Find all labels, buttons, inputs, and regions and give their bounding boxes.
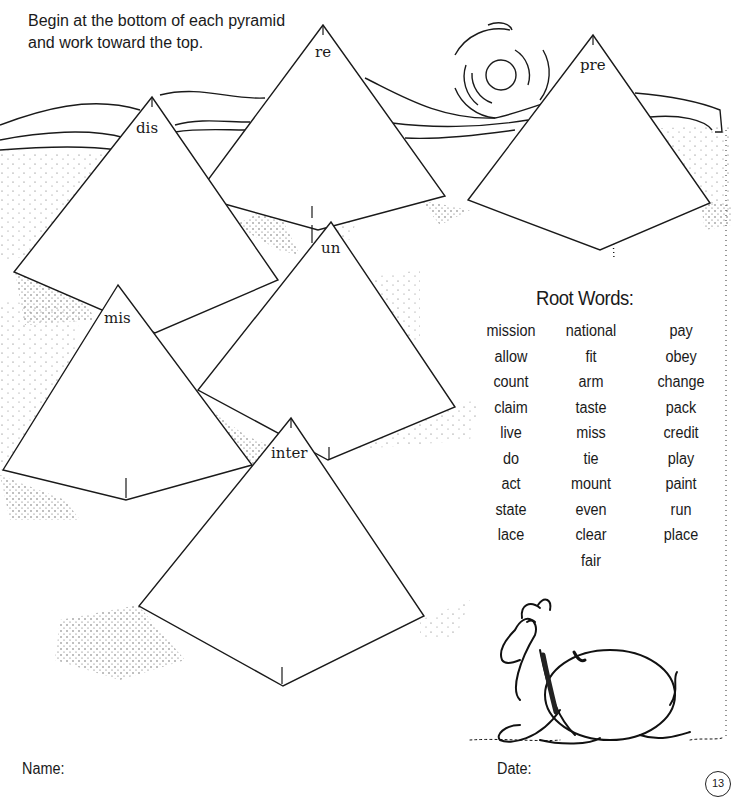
root-word: arm — [579, 369, 604, 395]
root-word: act — [501, 471, 520, 497]
root-words-title: Root Words: — [536, 286, 634, 310]
root-words-list: mission allow count claim live do act st… — [476, 318, 726, 573]
page-number: 13 — [705, 771, 731, 797]
pyramid-label-dis: dis — [136, 119, 158, 137]
name-label: Name: — [22, 760, 64, 778]
root-word: allow — [495, 344, 528, 370]
pyramid-label-re: re — [315, 43, 331, 61]
root-word: state — [495, 497, 526, 523]
root-word: pay — [669, 318, 692, 344]
root-word: mount — [571, 471, 611, 497]
pyramid-label-inter: inter — [271, 444, 308, 462]
root-word: play — [668, 446, 694, 472]
root-words-column-3: pay obey change pack credit play paint r… — [641, 318, 722, 573]
root-word: clear — [575, 522, 606, 548]
root-word: run — [671, 497, 692, 523]
pyramid-label-un: un — [321, 239, 341, 257]
pyramid-label-mis: mis — [104, 309, 131, 327]
camel-icon — [470, 600, 722, 744]
root-words-column-2: national fit arm taste miss tie mount ev… — [551, 318, 632, 573]
root-word: change — [657, 369, 704, 395]
root-word: credit — [663, 420, 698, 446]
root-word: national — [566, 318, 616, 344]
root-word: even — [575, 497, 606, 523]
root-word: tie — [583, 446, 598, 472]
root-word: place — [664, 522, 698, 548]
pyramid-label-pre: pre — [580, 56, 606, 74]
root-word: live — [500, 420, 522, 446]
sun-icon — [455, 23, 549, 118]
root-word: claim — [494, 395, 528, 421]
root-words-column-1: mission allow count claim live do act st… — [480, 318, 543, 573]
root-word: pack — [666, 395, 696, 421]
pyramid-re[interactable]: re — [196, 25, 445, 230]
root-word: lace — [498, 522, 524, 548]
date-label: Date: — [497, 760, 531, 778]
root-word: obey — [665, 344, 696, 370]
root-word: fit — [585, 344, 596, 370]
root-word: taste — [575, 395, 606, 421]
root-word: count — [493, 369, 528, 395]
root-word: miss — [576, 420, 606, 446]
root-word: mission — [487, 318, 536, 344]
root-word: do — [503, 446, 519, 472]
root-word: paint — [665, 471, 696, 497]
root-word: fair — [581, 548, 601, 574]
